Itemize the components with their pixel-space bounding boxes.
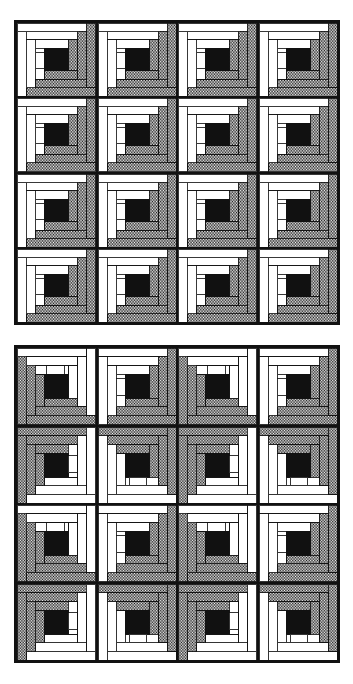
quilt-block — [16, 248, 97, 323]
quilt-block — [16, 426, 97, 505]
quilt-block — [177, 173, 258, 248]
quilt-block — [16, 583, 97, 662]
quilt-block — [177, 22, 258, 97]
quilt-block — [177, 248, 258, 323]
quilt-block — [16, 504, 97, 583]
quilt-block — [258, 426, 339, 505]
quilt-block — [258, 347, 339, 426]
quilt-block — [97, 248, 178, 323]
quilt-diagram-top — [14, 20, 340, 325]
quilt-block — [258, 248, 339, 323]
quilt-block — [177, 97, 258, 172]
quilt-block — [97, 173, 178, 248]
quilt-block — [16, 97, 97, 172]
quilt-block — [97, 22, 178, 97]
quilt-block — [258, 22, 339, 97]
quilt-block — [16, 173, 97, 248]
quilt-block — [177, 347, 258, 426]
quilt-block — [177, 583, 258, 662]
quilt-block — [97, 504, 178, 583]
quilt-block — [97, 426, 178, 505]
quilt-block — [258, 97, 339, 172]
quilt-block — [258, 504, 339, 583]
quilt-block — [16, 347, 97, 426]
quilt-block — [97, 583, 178, 662]
quilt-block — [177, 426, 258, 505]
quilt-block — [97, 347, 178, 426]
quilt-block — [177, 504, 258, 583]
figure-page — [0, 0, 353, 684]
quilt-block — [16, 22, 97, 97]
quilt-block — [97, 97, 178, 172]
quilt-block — [258, 583, 339, 662]
quilt-block — [258, 173, 339, 248]
quilt-diagram-bottom — [14, 345, 340, 663]
